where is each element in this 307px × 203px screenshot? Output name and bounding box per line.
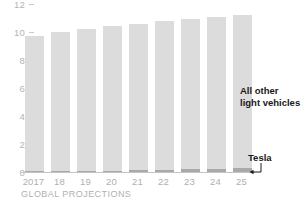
bar-segment-all-other-light-vehicles bbox=[51, 32, 70, 171]
bar-segment-tesla bbox=[51, 171, 70, 172]
bar-segment-tesla bbox=[181, 169, 200, 172]
bar-series-container bbox=[21, 0, 255, 203]
bar-segment-tesla bbox=[155, 170, 174, 172]
stacked-bar-chart: 121086420 20171819202122232425 GLOBAL PR… bbox=[0, 0, 307, 203]
bar-segment-all-other-light-vehicles bbox=[207, 17, 226, 169]
bar-21[interactable] bbox=[129, 24, 148, 172]
bar-segment-tesla bbox=[129, 170, 148, 172]
axis-caption: GLOBAL PROJECTIONS bbox=[21, 189, 131, 199]
bar-segment-all-other-light-vehicles bbox=[181, 19, 200, 169]
bar-segment-tesla bbox=[207, 169, 226, 173]
bar-segment-all-other-light-vehicles bbox=[155, 21, 174, 170]
x-axis-label-25: 25 bbox=[227, 176, 257, 187]
legend-all-other-line1: All other bbox=[240, 85, 300, 97]
bar-segment-tesla bbox=[25, 171, 44, 172]
plot-area: 121086420 20171819202122232425 GLOBAL PR… bbox=[0, 0, 307, 203]
bar-segment-tesla bbox=[103, 171, 122, 172]
bar-22[interactable] bbox=[155, 21, 174, 172]
legend-all-other-line2: light vehicles bbox=[240, 97, 300, 109]
bar-20[interactable] bbox=[103, 26, 122, 172]
bar-19[interactable] bbox=[77, 29, 96, 172]
legend-tesla: Tesla bbox=[248, 152, 272, 163]
bar-24[interactable] bbox=[207, 17, 226, 172]
tesla-callout-arrow-icon bbox=[249, 163, 263, 175]
bar-segment-all-other-light-vehicles bbox=[77, 29, 96, 171]
bar-segment-all-other-light-vehicles bbox=[103, 26, 122, 170]
bar-2017[interactable] bbox=[25, 36, 44, 172]
bar-23[interactable] bbox=[181, 19, 200, 172]
bar-segment-all-other-light-vehicles bbox=[129, 24, 148, 171]
legend-all-other-light-vehicles: All other light vehicles bbox=[240, 85, 300, 109]
x-axis-labels: 20171819202122232425 bbox=[21, 176, 255, 189]
bar-18[interactable] bbox=[51, 32, 70, 172]
bar-segment-tesla bbox=[77, 171, 96, 172]
bar-segment-all-other-light-vehicles bbox=[25, 36, 44, 171]
